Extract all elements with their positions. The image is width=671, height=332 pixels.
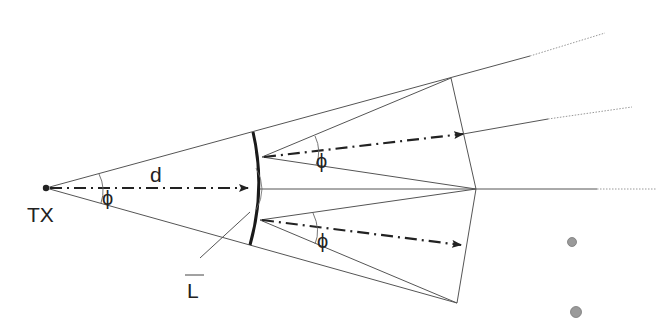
lens-surface: [250, 132, 259, 245]
receiver-dot-2: [571, 307, 582, 318]
angle-arcs: [99, 136, 319, 244]
angle-label-upper: ϕ: [316, 150, 327, 172]
angle-label-center: ϕ: [102, 187, 113, 209]
lens-label: L: [187, 279, 199, 302]
upper-subbeam: [262, 78, 632, 189]
lower-beam-arrow: [262, 220, 461, 245]
transmitter-point: [43, 185, 49, 191]
lens-leader-line: [200, 212, 250, 258]
angle-label-lower: ϕ: [317, 230, 328, 252]
lower-subbeam: [260, 189, 476, 303]
upper-beam-arrow: [264, 134, 463, 157]
beam-diagram: TX d ϕ ϕ ϕ L: [0, 0, 671, 332]
tx-label: TX: [27, 203, 54, 226]
receiver-dot-1: [568, 238, 577, 247]
distance-label: d: [150, 163, 162, 186]
